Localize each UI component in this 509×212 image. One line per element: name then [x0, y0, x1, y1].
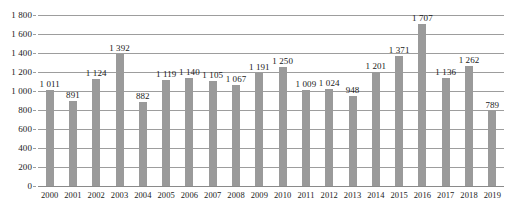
bar-group: 1 009	[294, 15, 317, 186]
bar-value-label: 1 124	[86, 68, 107, 78]
bar-group: 1 136	[434, 15, 457, 186]
bar-group: 1 011	[38, 15, 61, 186]
bar-group: 1 140	[178, 15, 201, 186]
bar-group: 1 067	[224, 15, 247, 186]
bar[interactable]	[232, 85, 240, 186]
bar[interactable]	[116, 54, 124, 186]
x-axis-tick-label: 2009	[251, 190, 268, 200]
bar-value-label: 1 371	[389, 45, 410, 55]
y-axis-tick-label: 1 600	[11, 29, 32, 39]
bar-value-label: 1 067	[226, 74, 247, 84]
bar[interactable]	[46, 90, 54, 186]
x-axis-tick-label: 2015	[390, 190, 407, 200]
bar-group: 882	[131, 15, 154, 186]
x-axis-tick-label: 2011	[297, 190, 314, 200]
x-axis-tick-label: 2003	[111, 190, 128, 200]
bar[interactable]	[92, 79, 100, 186]
bar[interactable]	[162, 80, 170, 186]
x-axis-tick-label: 2019	[484, 190, 501, 200]
bar-group: 1 371	[388, 15, 411, 186]
y-axis-tick-label: 1 800	[11, 10, 32, 20]
x-axis-tick-label: 2000	[41, 190, 58, 200]
bar-value-label: 1 707	[412, 13, 433, 23]
bar-group: 891	[61, 15, 84, 186]
x-axis-tick-label: 2002	[88, 190, 105, 200]
x-axis-tick-label: 2005	[157, 190, 174, 200]
bar-group: 948	[341, 15, 364, 186]
bar-value-label: 882	[136, 91, 150, 101]
bar-group: 1 124	[85, 15, 108, 186]
bar-group: 1 250	[271, 15, 294, 186]
bar-group: 1 262	[457, 15, 480, 186]
bar-value-label: 1 009	[296, 79, 317, 89]
y-axis-tick-label: 0	[27, 181, 32, 191]
bar-value-label: 1 105	[202, 70, 223, 80]
y-axis-tick-label: 1 400	[11, 48, 32, 58]
bar[interactable]	[418, 24, 426, 186]
x-axis-tick-label: 2010	[274, 190, 291, 200]
y-axis-tick-label: 800	[18, 105, 32, 115]
bar-group: 1 392	[108, 15, 131, 186]
bar[interactable]	[69, 101, 77, 186]
y-axis-tick-label: 1 000	[11, 86, 32, 96]
x-axis-tick-label: 2016	[414, 190, 431, 200]
x-axis-tick-label: 2006	[181, 190, 198, 200]
bar[interactable]	[209, 81, 217, 186]
bar-group: 1 191	[248, 15, 271, 186]
bar-group: 1 024	[318, 15, 341, 186]
bar[interactable]	[488, 111, 496, 186]
bar-value-label: 1 024	[319, 78, 340, 88]
bar-chart: 02004006008001 0001 2001 4001 6001 800 1…	[0, 0, 509, 212]
y-axis-tick-label: 400	[18, 143, 32, 153]
bar-value-label: 1 392	[109, 43, 130, 53]
bar-value-label: 1 201	[365, 61, 386, 71]
bar[interactable]	[372, 72, 380, 186]
axis-baseline	[38, 186, 504, 187]
bar-value-label: 1 136	[435, 67, 456, 77]
x-axis-tick-label: 2008	[227, 190, 244, 200]
x-axis-tick-label: 2007	[204, 190, 221, 200]
x-axis-tick-label: 2017	[437, 190, 454, 200]
y-axis: 02004006008001 0001 2001 4001 6001 800	[0, 15, 36, 186]
x-axis-tick-label: 2014	[367, 190, 384, 200]
bar[interactable]	[325, 89, 333, 186]
bar[interactable]	[139, 102, 147, 186]
x-axis-tick-label: 2001	[64, 190, 81, 200]
x-axis-tick-label: 2004	[134, 190, 151, 200]
bar[interactable]	[349, 96, 357, 186]
y-axis-tick-label: 600	[18, 124, 32, 134]
bar-group: 789	[481, 15, 504, 186]
y-axis-tick-label: 1 200	[11, 67, 32, 77]
bar[interactable]	[255, 73, 263, 186]
bar-value-label: 1 011	[39, 79, 59, 89]
bar-value-label: 948	[346, 85, 360, 95]
bar-value-label: 1 140	[179, 67, 200, 77]
bar-group: 1 119	[155, 15, 178, 186]
bar[interactable]	[302, 90, 310, 186]
bar[interactable]	[185, 78, 193, 186]
bar-value-label: 891	[66, 90, 80, 100]
bar-group: 1 707	[411, 15, 434, 186]
x-axis-tick-label: 2018	[460, 190, 477, 200]
bar-value-label: 1 119	[156, 69, 176, 79]
bar-group: 1 201	[364, 15, 387, 186]
bar-value-label: 1 250	[272, 56, 293, 66]
bar[interactable]	[279, 67, 287, 186]
bar-value-label: 1 262	[459, 55, 480, 65]
x-axis-tick-label: 2012	[321, 190, 338, 200]
bar[interactable]	[465, 66, 473, 186]
bar[interactable]	[395, 56, 403, 186]
plot-area: 1 0118911 1241 3928821 1191 1401 1051 06…	[38, 15, 504, 186]
x-axis: 2000200120022003200420052006200720082009…	[38, 190, 504, 208]
x-axis-tick-label: 2013	[344, 190, 361, 200]
y-axis-tick-label: 200	[18, 162, 32, 172]
bar[interactable]	[442, 78, 450, 186]
bar-group: 1 105	[201, 15, 224, 186]
bar-value-label: 1 191	[249, 62, 270, 72]
bar-value-label: 789	[485, 100, 499, 110]
